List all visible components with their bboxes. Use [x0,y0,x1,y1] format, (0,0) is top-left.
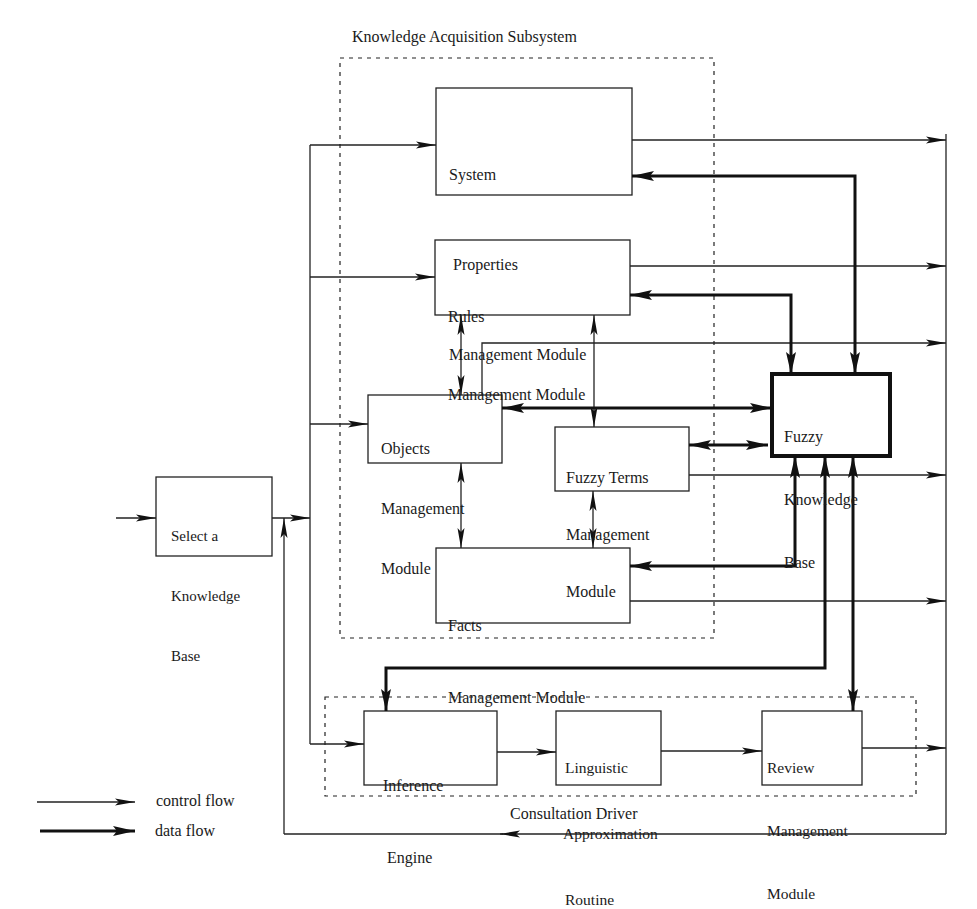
linguistic-approx-line-1: Linguistic [563,757,658,779]
inference-engine-line-1: Inference [383,774,443,798]
legend-data-flow-label: data flow [155,820,215,842]
linguistic-approx-label: Linguistic Approximation Routine [563,713,658,909]
inference-engine-label: Inference Engine [383,726,443,894]
rules-line-2: Management Module [448,382,585,408]
facts-line-1: Facts [448,614,585,638]
review-line-2: Management [767,820,848,841]
fuzzy-kb-line-2: Knowledge [784,489,858,510]
select-kb-label: Select a Knowledge Base [171,486,240,686]
objects-line-2: Management [381,499,465,519]
select-kb-line-2: Knowledge [171,586,240,606]
fuzzy-kb-line-3: Base [784,552,858,573]
knowledge-acquisition-label: Knowledge Acquisition Subsystem [352,26,577,48]
objects-line-1: Objects [381,439,465,459]
review-line-1: Review [767,757,848,778]
legend-control-flow-label: control flow [156,790,235,812]
fuzzy-kb-label: Fuzzy Knowledge Base [784,384,858,594]
linguistic-approx-line-3: Routine [563,889,658,909]
system-properties-line-1: System [449,160,586,190]
review-line-3: Module [767,883,848,904]
fuzzy-terms-line-2: Management [566,525,650,544]
select-kb-line-3: Base [171,646,240,666]
fuzzy-terms-line-1: Fuzzy Terms [566,468,650,487]
review-label: Review Management Module [767,715,848,909]
linguistic-approx-line-2: Approximation [563,823,658,845]
select-kb-line-1: Select a [171,526,240,546]
facts-line-2: Management Module [448,686,585,710]
rules-label: Rules Management Module [448,252,585,434]
inference-engine-line-2: Engine [383,846,443,870]
fuzzy-kb-line-1: Fuzzy [784,426,858,447]
rules-line-1: Rules [448,304,585,330]
facts-label: Facts Management Module [448,566,585,734]
